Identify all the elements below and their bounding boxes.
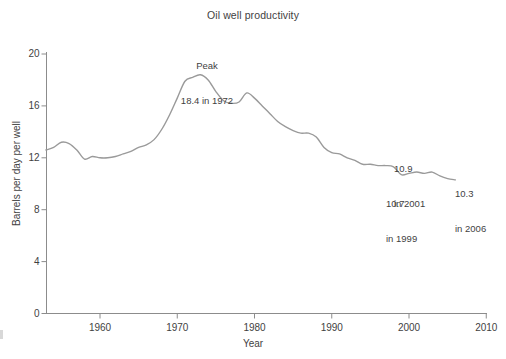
annotation-peak-line2: 18.4 in 1972 (152, 95, 262, 107)
chart-container: Oil well productivity Barrels per day pe… (0, 0, 506, 359)
x-tick-label: 1990 (312, 322, 352, 333)
x-axis-ticks (100, 314, 486, 319)
y-tick-label: 8 (18, 204, 40, 215)
annotation-1999-line2: in 1999 (386, 233, 436, 245)
x-tick-label: 2000 (389, 322, 429, 333)
x-tick-label: 1980 (235, 322, 275, 333)
x-tick-label: 1970 (157, 322, 197, 333)
annotation-1999: 10.7 in 1999 (386, 175, 436, 267)
y-tick-label: 16 (18, 100, 40, 111)
y-axis-ticks (42, 54, 47, 314)
x-axis-label: Year (0, 338, 506, 349)
annotation-peak-line1: Peak (152, 60, 262, 72)
y-axis-label: Barrels per day per well (11, 94, 22, 254)
y-tick-label: 0 (18, 308, 40, 319)
x-tick-label: 2010 (466, 322, 506, 333)
annotation-2006: 10.3 in 2006 (455, 165, 505, 257)
y-tick-label: 20 (18, 48, 40, 59)
annotation-2001-line1: 10.9 (394, 163, 444, 175)
annotation-2006-line2: in 2006 (455, 223, 505, 235)
annotation-1999-line1: 10.7 (386, 198, 436, 210)
annotation-2006-line1: 10.3 (455, 188, 505, 200)
y-tick-label: 12 (18, 152, 40, 163)
edge-artifact (0, 330, 3, 339)
y-tick-label: 4 (18, 256, 40, 267)
annotation-peak: Peak 18.4 in 1972 (152, 37, 262, 129)
x-tick-label: 1960 (80, 322, 120, 333)
